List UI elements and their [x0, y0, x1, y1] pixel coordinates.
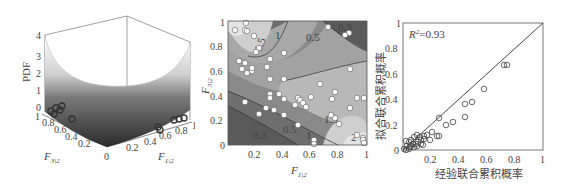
y-tick: 0 — [220, 140, 225, 151]
z-tick: 3 — [36, 51, 41, 62]
surface-panel: 4 3 2 1 0 PDF 1 0.8 0.6 0.4 0.2 0 0.2 0.… — [0, 0, 195, 185]
x-tick: 0.6 — [159, 130, 172, 141]
r-squared-annotation: R2=0.93 — [408, 28, 445, 40]
y-tick: 1 — [220, 17, 225, 28]
y-tick: 0.6 — [210, 66, 223, 77]
x-tick: 0.4 — [452, 154, 465, 165]
y-axis-label: 拟合联合累积概率 — [375, 52, 387, 140]
y-tick: 0.4 — [65, 131, 78, 142]
x-tick: 1 — [540, 154, 545, 165]
x-tick: 0 — [104, 151, 109, 162]
y-tick: 1 — [35, 111, 40, 122]
y-tick: 1 — [396, 18, 401, 29]
x-tick: 0.2 — [126, 142, 139, 153]
x-tick: 0.2 — [248, 149, 261, 160]
z-tick: 4 — [36, 30, 41, 41]
y-tick: 0.8 — [210, 41, 223, 52]
contour-label: 1 — [306, 129, 312, 141]
x-axis-label: F1|2 — [157, 150, 174, 165]
z-tick: 2 — [36, 68, 41, 79]
z-tick: 1 — [36, 85, 41, 96]
scatter-plot: R2=0.93 0 0.2 0.4 0.6 0.8 1 0.2 0.4 0.6 … — [375, 0, 564, 185]
contour-label: 0.3 — [253, 129, 267, 141]
surface-plot: 4 3 2 1 0 PDF 1 0.8 0.6 0.4 0.2 0 0.2 0.… — [0, 0, 195, 185]
contour-label: 1 — [275, 29, 281, 41]
contour-panel: 1 1.5 0.5 0.3 0.3 0.5 1 1.5 2 — [195, 0, 375, 185]
x-tick: 0.2 — [424, 154, 437, 165]
x-tick: 0.4 — [276, 149, 289, 160]
contour-label: 0.5 — [306, 31, 320, 43]
x-axis-label: F1|2 — [290, 164, 307, 179]
y-tick: 0 — [394, 145, 399, 156]
y-tick: 0.4 — [210, 91, 223, 102]
y-axis-label: F3|2 — [43, 150, 60, 165]
y-tick: 0.2 — [210, 115, 223, 126]
x-tick: 0.6 — [480, 154, 493, 165]
x-tick: 0.8 — [331, 149, 344, 160]
scatter-panel: R2=0.93 0 0.2 0.4 0.6 0.8 1 0.2 0.4 0.6 … — [375, 0, 564, 185]
x-tick: 0.6 — [303, 149, 316, 160]
x-tick: 0.8 — [175, 125, 188, 136]
x-tick: 0.8 — [508, 154, 521, 165]
contour-plot: 1 1.5 0.5 0.3 0.3 0.5 1 1.5 2 — [195, 0, 375, 185]
y-tick: 0.8 — [42, 117, 55, 128]
x-tick: 1 — [364, 149, 369, 160]
x-tick: 0.4 — [144, 136, 157, 147]
z-axis-label: PDF — [20, 62, 32, 82]
x-axis-label: 经验联合累积概率 — [435, 167, 523, 180]
y-tick: 0.2 — [78, 138, 91, 149]
